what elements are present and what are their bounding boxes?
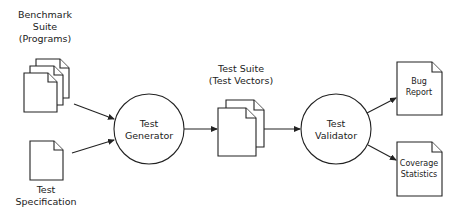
test-generator-circle (114, 94, 184, 164)
benchmark-suite-label-line-1: Benchmark (18, 9, 73, 20)
test-generator-label-line-2: Generator (125, 130, 173, 141)
test-validator-node: Test Validator (301, 94, 371, 164)
benchmark-suite-label-line-2: Suite (33, 21, 57, 32)
edge-validator-to-bug-report (367, 98, 396, 113)
test-specification-label-line-2: Specification (16, 196, 77, 207)
test-validator-label-line-1: Test (326, 118, 346, 129)
benchmark-suite-label: Benchmark Suite (Programs) (18, 9, 73, 44)
test-specification-label: Test Specification (16, 184, 77, 207)
bug-report-label-line-1: Bug (411, 77, 427, 86)
bug-report-label-line-2: Report (406, 88, 433, 97)
test-generator-node: Test Generator (114, 94, 184, 164)
test-suite-documents-icon (218, 100, 264, 156)
bug-report-node: Bug Report (397, 62, 442, 115)
test-generator-label-line-1: Test (139, 118, 159, 129)
document-fold (254, 100, 264, 110)
document-fold (60, 59, 69, 68)
test-suite-label-line-1: Test Suite (217, 63, 264, 74)
edge-specification-to-generator (72, 140, 114, 153)
edge-benchmark-to-generator (74, 104, 114, 119)
test-specification-label-line-1: Test (36, 184, 56, 195)
benchmark-suite-documents-icon (24, 59, 69, 112)
flow-diagram: Benchmark Suite (Programs) Test Specific… (0, 0, 464, 217)
coverage-statistics-node: Coverage Statistics (397, 142, 442, 196)
coverage-statistics-label-line-1: Coverage (400, 159, 438, 168)
test-specification-document-icon (30, 141, 63, 180)
test-suite-label: Test Suite (Test Vectors) (209, 63, 273, 86)
edge-validator-to-coverage (368, 145, 396, 160)
test-suite-label-line-2: (Test Vectors) (209, 75, 273, 86)
document-fold (432, 142, 442, 152)
benchmark-suite-label-line-3: (Programs) (19, 33, 71, 44)
document-fold (432, 62, 442, 72)
coverage-statistics-label-line-2: Statistics (401, 170, 438, 179)
test-validator-label-line-2: Validator (315, 130, 357, 141)
test-validator-circle (301, 94, 371, 164)
